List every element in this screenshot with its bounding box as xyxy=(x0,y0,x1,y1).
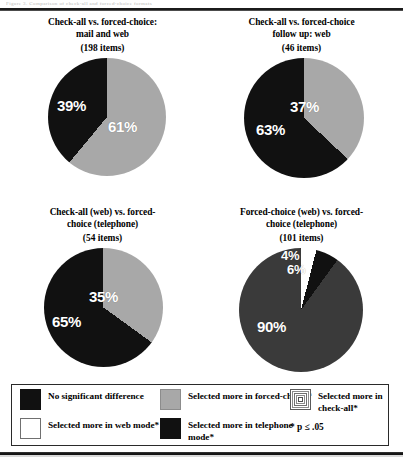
pie-4-slice-label-white: 4% xyxy=(281,248,299,263)
pie-chart-2 xyxy=(244,58,364,178)
chart-items-count-2: (46 items) xyxy=(201,42,402,55)
figure-container: Figure 3. Comparison of check-all and fo… xyxy=(0,0,403,461)
pie-2-slice-label-gray: 37% xyxy=(290,98,319,115)
legend-swatch-black-icon xyxy=(20,389,41,410)
legend-swatch-gray-icon xyxy=(160,389,181,410)
pie-4-slice-label-darkgray: 90% xyxy=(257,318,286,335)
chart-title-1-line2: mail and web xyxy=(16,28,189,40)
chart-items-count-3: (54 items) xyxy=(2,232,203,245)
legend-footnote-row: * p ≤ .05 xyxy=(290,421,324,433)
pie-1-slice-label-black: 39% xyxy=(57,97,86,114)
legend-item-no-significant-difference: No significant difference xyxy=(20,389,144,410)
legend-box: No significant difference Selected more … xyxy=(11,384,389,446)
chart-title-3-line1: Check-all (web) vs. forced- xyxy=(16,206,189,218)
legend-swatch-concentric-squares-icon xyxy=(290,389,311,410)
top-divider-rule xyxy=(0,8,403,11)
chart-title-4: Forced-choice (web) vs. forced- choice (… xyxy=(201,206,402,230)
chart-title-1: Check-all vs. forced-choice: mail and we… xyxy=(2,16,203,40)
chart-title-3: Check-all (web) vs. forced- choice (tele… xyxy=(2,206,203,230)
pie-1-slice-label-gray: 61% xyxy=(108,118,137,135)
pie-wrap-4: 4% 6% 90% xyxy=(201,248,402,374)
pie-3-slice-label-gray: 35% xyxy=(89,288,118,305)
legend-label-3: Selected more in web mode* xyxy=(48,418,159,431)
chart-cell-1: Check-all vs. forced-choice: mail and we… xyxy=(2,16,203,184)
bottom-divider-rule-shadow xyxy=(0,455,403,457)
legend-label-2: Selected more in check-all* xyxy=(318,389,388,415)
pie-4-slice-label-black: 6% xyxy=(287,262,305,277)
pie-3-slice-label-black: 65% xyxy=(52,313,81,330)
chart-title-1-line1: Check-all vs. forced-choice: xyxy=(16,16,189,28)
pie-chart-3 xyxy=(44,248,163,367)
pie-2-slice-label-black: 63% xyxy=(256,121,285,138)
legend-item-check-all: Selected more in check-all* xyxy=(290,389,388,415)
chart-title-4-line1: Forced-choice (web) vs. forced- xyxy=(215,206,388,218)
pie-wrap-2: 37% 63% xyxy=(201,58,402,184)
chart-title-2-line1: Check-all vs. forced-choice xyxy=(215,16,388,28)
chart-cell-3: Check-all (web) vs. forced- choice (tele… xyxy=(2,206,203,374)
chart-items-count-4: (101 items) xyxy=(201,232,402,245)
legend-label-0: No significant difference xyxy=(48,389,144,402)
chart-cell-2: Check-all vs. forced-choice follow up: w… xyxy=(201,16,402,184)
legend-swatch-black-2-icon xyxy=(160,418,181,439)
chart-items-count-1: (198 items) xyxy=(2,42,203,55)
top-cropped-caption: Figure 3. Comparison of check-all and fo… xyxy=(6,0,326,7)
legend-swatch-white-icon xyxy=(20,418,41,439)
chart-cell-4: Forced-choice (web) vs. forced- choice (… xyxy=(201,206,402,374)
pie-chart-1 xyxy=(48,58,166,176)
legend-item-web-mode: Selected more in web mode* xyxy=(20,418,159,439)
chart-title-2-line2: follow up: web xyxy=(215,28,388,40)
pie-wrap-3: 35% 65% xyxy=(2,248,203,374)
chart-title-3-line2: choice (telephone) xyxy=(16,218,189,230)
chart-title-4-line2: choice (telephone) xyxy=(215,218,388,230)
pie-wrap-1: 39% 61% xyxy=(2,58,203,184)
legend-footnote: * p ≤ .05 xyxy=(290,421,324,433)
chart-title-2: Check-all vs. forced-choice follow up: w… xyxy=(201,16,402,40)
